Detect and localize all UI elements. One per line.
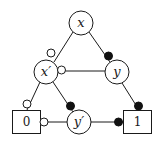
node-xprime-label: x′ <box>41 64 51 79</box>
low-branch-marker-icon <box>23 100 31 108</box>
low-branch-marker-icon <box>40 118 48 126</box>
low-branch-marker-icon <box>47 49 55 57</box>
node-y-label: y <box>112 64 121 79</box>
node-x: x <box>69 11 93 35</box>
high-branch-marker-icon <box>67 102 75 110</box>
high-branch-marker-icon <box>115 118 123 126</box>
node-xprime: x′ <box>34 60 58 84</box>
bdd-diagram: x x′ y y′ 0 1 <box>0 0 160 141</box>
high-branch-marker-icon <box>135 102 143 110</box>
terminal-1: 1 <box>124 111 152 134</box>
node-x-label: x <box>77 15 85 30</box>
terminal-0: 0 <box>13 111 41 134</box>
edge-x-to-xprime <box>54 32 73 62</box>
node-yprime-label: y′ <box>73 114 84 129</box>
node-yprime: y′ <box>67 110 91 134</box>
terminal-1-label: 1 <box>134 115 142 129</box>
high-branch-marker-icon <box>105 52 113 60</box>
node-y: y <box>105 60 129 84</box>
low-branch-marker-icon <box>58 66 66 74</box>
terminal-0-label: 0 <box>23 115 31 129</box>
